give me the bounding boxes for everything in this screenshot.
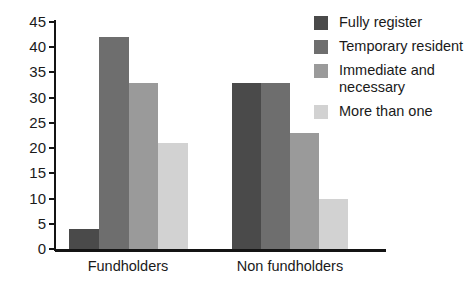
- y-axis-tick-label: 40: [20, 39, 46, 54]
- legend-item-label: Temporary resident: [339, 38, 463, 55]
- legend-item-label: More than one: [339, 103, 433, 120]
- legend-color-swatch: [314, 64, 328, 78]
- y-axis-tick-label: 45: [20, 14, 46, 29]
- chart-legend: Fully registerTemporary residentImmediat…: [314, 14, 473, 127]
- legend-color-swatch: [314, 40, 328, 54]
- y-axis-tick-label: 0: [20, 241, 46, 256]
- x-axis-category-label: Non fundholders: [210, 258, 370, 274]
- y-axis-tick-label: 5: [20, 216, 46, 231]
- legend-item-label: Fully register: [339, 14, 422, 31]
- legend-color-swatch: [314, 16, 328, 30]
- x-axis-line: [55, 249, 386, 252]
- legend-item: Temporary resident: [314, 38, 473, 55]
- y-axis-tick-label: 35: [20, 64, 46, 79]
- bar: [129, 83, 159, 249]
- bar: [319, 199, 348, 249]
- y-axis-tick-label: 30: [20, 90, 46, 105]
- legend-item: Fully register: [314, 14, 473, 31]
- y-axis-tick-label: 10: [20, 191, 46, 206]
- y-axis-tick-label: 15: [20, 165, 46, 180]
- legend-color-swatch: [314, 105, 328, 119]
- legend-item-label: Immediate and necessary: [339, 62, 473, 96]
- legend-item: Immediate and necessary: [314, 62, 473, 96]
- y-axis-tick-label: 25: [20, 115, 46, 130]
- bar: [261, 83, 290, 249]
- bar: [158, 143, 188, 249]
- x-axis-category-label: Fundholders: [48, 258, 208, 274]
- legend-item: More than one: [314, 103, 473, 120]
- bar: [69, 229, 99, 249]
- bar-chart-figure: 051015202530354045 FundholdersNon fundho…: [0, 0, 473, 289]
- bar: [232, 83, 261, 249]
- bar: [99, 37, 129, 249]
- y-axis-tick-label: 20: [20, 140, 46, 155]
- bar: [290, 133, 319, 249]
